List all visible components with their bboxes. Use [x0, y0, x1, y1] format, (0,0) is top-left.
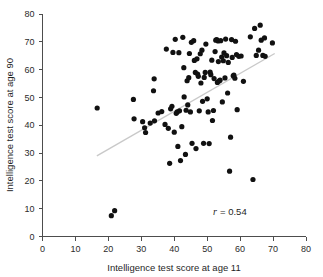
data-point	[199, 48, 204, 53]
x-tick-label: 30	[136, 244, 146, 254]
y-tick-label: 70	[24, 37, 34, 47]
data-point	[262, 35, 267, 40]
data-point	[206, 109, 211, 114]
data-point	[205, 96, 210, 101]
x-axis-ticks: 01020304050607080	[40, 237, 311, 254]
data-point	[200, 99, 205, 104]
data-point	[202, 75, 207, 80]
x-tick-label: 60	[235, 244, 245, 254]
data-point	[140, 119, 145, 124]
chart-canvas: 01020304050607080 01020304050607080 Inte…	[0, 0, 323, 277]
data-point	[188, 109, 193, 114]
data-point	[194, 56, 199, 61]
data-point	[167, 161, 172, 166]
data-point	[233, 39, 238, 44]
data-point	[239, 53, 244, 58]
data-point	[152, 118, 157, 123]
y-tick-label: 60	[24, 65, 34, 75]
data-point	[225, 90, 230, 95]
data-point	[210, 118, 215, 123]
data-point	[131, 97, 136, 102]
x-tick-label: 70	[268, 244, 278, 254]
data-point	[232, 76, 237, 81]
data-point	[170, 50, 175, 55]
data-point	[258, 23, 263, 28]
data-point	[197, 108, 202, 113]
data-point	[248, 34, 253, 39]
y-axis-title: Intelligence test score at age 90	[4, 58, 15, 192]
data-point	[112, 208, 117, 213]
data-point	[221, 58, 226, 63]
data-point	[209, 58, 214, 63]
data-points-group	[95, 23, 275, 219]
data-point	[228, 135, 233, 140]
data-point	[172, 130, 177, 135]
data-point	[203, 41, 208, 46]
data-point	[198, 80, 203, 85]
data-point	[203, 70, 208, 75]
data-point	[211, 108, 216, 113]
data-point	[254, 53, 259, 58]
data-point	[212, 49, 217, 54]
data-point	[169, 104, 174, 109]
data-point	[182, 94, 187, 99]
data-point	[183, 152, 188, 157]
data-point	[142, 125, 147, 130]
data-point	[235, 107, 240, 112]
x-tick-label: 20	[103, 244, 113, 254]
data-point	[164, 46, 169, 51]
x-axis-title: Intelligence test score at age 11	[107, 262, 240, 273]
data-point	[151, 88, 156, 93]
x-tick-label: 80	[301, 244, 311, 254]
data-point	[176, 50, 181, 55]
data-point	[250, 177, 255, 182]
data-point	[222, 75, 227, 80]
data-point	[220, 99, 225, 104]
data-point	[201, 141, 206, 146]
data-point	[166, 126, 171, 131]
scatter-plot-figure: 01020304050607080 01020304050607080 Inte…	[0, 0, 323, 277]
y-tick-label: 80	[24, 9, 34, 19]
y-tick-label: 50	[24, 93, 34, 103]
data-point	[223, 36, 228, 41]
data-point	[218, 38, 223, 43]
data-point	[152, 76, 157, 81]
data-point	[226, 60, 231, 65]
data-point	[173, 37, 178, 42]
correlation-symbol: r	[213, 206, 217, 217]
data-point	[256, 48, 261, 53]
data-point	[227, 169, 232, 174]
data-point	[270, 40, 275, 45]
x-tick-label: 40	[169, 244, 179, 254]
data-point	[181, 65, 186, 70]
data-point	[196, 74, 201, 79]
data-point	[178, 158, 183, 163]
data-point	[131, 116, 136, 121]
data-point	[109, 213, 114, 218]
data-point	[207, 141, 212, 146]
data-point	[179, 124, 184, 129]
data-point	[217, 78, 222, 83]
axes	[43, 14, 307, 237]
y-tick-label: 10	[24, 204, 34, 214]
data-point	[177, 108, 182, 113]
x-tick-label: 10	[70, 244, 80, 254]
y-axis-ticks: 01020304050607080	[24, 9, 42, 242]
data-point	[143, 130, 148, 135]
data-point	[159, 109, 164, 114]
data-point	[216, 59, 221, 64]
y-tick-label: 20	[24, 176, 34, 186]
data-point	[180, 35, 185, 40]
data-point	[175, 144, 180, 149]
data-point	[263, 54, 268, 59]
data-point	[187, 51, 192, 56]
data-point	[224, 53, 229, 58]
correlation-annotation: r = 0.54	[213, 206, 247, 217]
data-point	[193, 146, 198, 151]
data-point	[241, 79, 246, 84]
data-point	[191, 38, 196, 43]
y-tick-label: 0	[29, 232, 34, 242]
correlation-value: = 0.54	[220, 206, 247, 217]
data-point	[185, 102, 190, 107]
y-tick-label: 40	[24, 120, 34, 130]
